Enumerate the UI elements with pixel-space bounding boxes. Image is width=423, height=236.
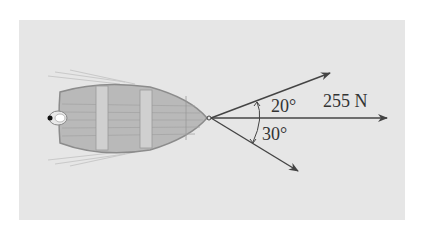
force-vectors: [211, 73, 387, 171]
boat: [48, 84, 212, 152]
angle-20-label: 20°: [271, 97, 296, 115]
force-diagram: [0, 0, 423, 236]
angle-30-label: 30°: [262, 125, 287, 143]
angle-arc: [250, 102, 260, 143]
force-magnitude-label: 255 N: [323, 92, 368, 110]
